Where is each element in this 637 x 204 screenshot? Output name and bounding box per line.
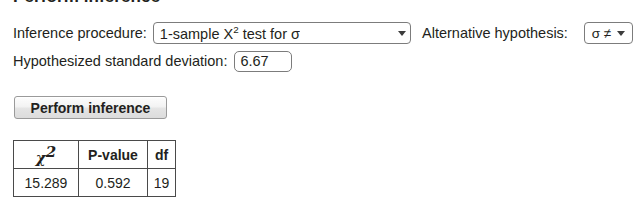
inference-procedure-value: 1-sample X2 test for σ — [160, 24, 300, 42]
column-header-chi-square: χ2 — [14, 141, 79, 169]
inference-procedure-row: Inference procedure: 1-sample X2 test fo… — [13, 21, 411, 45]
chi-symbol: χ — [36, 148, 46, 166]
cell-chi-square: 15.289 — [14, 169, 79, 197]
hypothesized-sd-input[interactable]: 6.67 — [234, 51, 292, 72]
column-header-p-value: P-value — [79, 141, 148, 169]
page-title: Perform inference — [13, 0, 160, 7]
alternative-hypothesis-label: Alternative hypothesis: — [422, 21, 568, 45]
column-header-df: df — [148, 141, 176, 169]
chevron-down-icon[interactable] — [617, 31, 625, 36]
table-row: 15.289 0.592 19 — [14, 169, 176, 197]
hypothesized-sd-row: Hypothesized standard deviation: 6.67 — [13, 49, 292, 73]
hypothesized-sd-label: Hypothesized standard deviation: — [13, 53, 227, 69]
inference-results-table: χ2 P-value df 15.289 0.592 19 — [13, 140, 176, 197]
inference-procedure-value-suffix: test for σ — [239, 26, 300, 42]
chi-symbol-superscript: 2 — [46, 143, 56, 161]
alternative-hypothesis-select[interactable]: σ ≠ — [584, 22, 633, 44]
inference-procedure-select[interactable]: 1-sample X2 test for σ — [153, 22, 411, 44]
inference-procedure-label: Inference procedure: — [13, 25, 147, 41]
table-header-row: χ2 P-value df — [14, 141, 176, 169]
chevron-down-icon[interactable] — [398, 31, 406, 36]
alternative-hypothesis-value: σ ≠ — [592, 26, 612, 41]
cell-df: 19 — [148, 169, 176, 197]
cell-p-value: 0.592 — [79, 169, 148, 197]
perform-inference-button[interactable]: Perform inference — [14, 96, 167, 119]
inference-procedure-value-prefix: 1-sample X — [160, 26, 233, 42]
